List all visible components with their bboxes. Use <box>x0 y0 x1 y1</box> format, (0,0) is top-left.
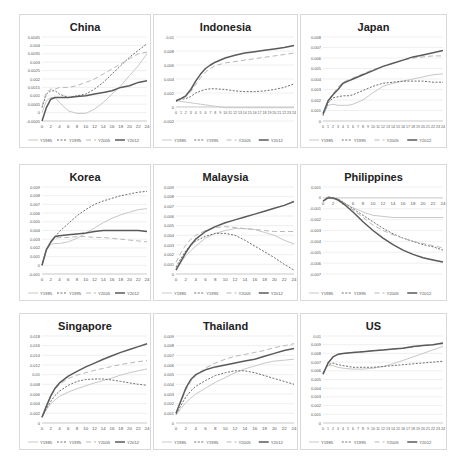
x-tick-label: 21 <box>277 111 281 115</box>
x-tick-label: 5 <box>200 111 202 115</box>
legend-label: Y2005 <box>239 291 252 296</box>
x-tick-label: 24 <box>145 124 150 129</box>
x-tick-label: 0 <box>41 124 44 129</box>
y-tick-label: 0.002 <box>30 245 41 250</box>
y-tick-label: 0.009 <box>164 334 175 339</box>
y-tick-label: 0.01 <box>166 35 175 40</box>
x-tick-label: 21 <box>426 125 430 129</box>
y-tick-label: 0.008 <box>311 35 322 40</box>
y-tick-label: 0.002 <box>311 98 322 103</box>
x-tick-label: 20 <box>272 111 276 115</box>
x-tick-label: 16 <box>253 111 257 115</box>
y-tick-label: 0.008 <box>164 49 175 54</box>
y-tick-label: 0.003 <box>30 60 41 65</box>
y-tick-label: -0.002 <box>163 119 175 124</box>
x-tick-label: 12 <box>381 125 385 129</box>
y-tick-label: 0.009 <box>164 185 175 190</box>
y-tick-label: 0.006 <box>164 63 175 68</box>
series-line-y1985 <box>176 359 294 415</box>
x-tick-label: 14 <box>101 124 106 129</box>
y-tick-label: 0.001 <box>30 254 41 259</box>
legend-label: Y2005 <box>98 138 111 143</box>
x-tick-label: 20 <box>127 124 132 129</box>
x-tick-label: 6 <box>204 277 207 282</box>
y-tick-label: 0.0025 <box>28 68 41 73</box>
x-tick-label: 4 <box>342 427 344 431</box>
chart-panel-china: China0.00450.0040.00350.0030.00250.0020.… <box>19 14 151 148</box>
x-tick-label: 14 <box>391 201 396 206</box>
y-tick-label: 0.004 <box>164 77 175 82</box>
series-line-y2012 <box>323 343 443 374</box>
y-tick-label: 0 <box>319 195 322 200</box>
y-tick-label: -0.0005 <box>26 119 40 124</box>
x-tick-label: 15 <box>396 125 400 129</box>
legend-label: Y1995 <box>354 440 367 445</box>
x-tick-label: 23 <box>436 125 440 129</box>
y-tick-label: 0 <box>172 272 175 277</box>
y-tick-label: 0 <box>172 105 175 110</box>
y-tick-label: 0.0035 <box>28 51 41 56</box>
x-tick-label: 4 <box>194 277 197 282</box>
x-tick-label: 22 <box>136 426 141 431</box>
x-tick-label: 8 <box>214 426 217 431</box>
series-line-y2012 <box>176 45 294 100</box>
legend-label: Y1995 <box>354 291 367 296</box>
x-tick-label: 16 <box>252 277 257 282</box>
x-tick-label: 14 <box>101 277 106 282</box>
legend-label: Y1985 <box>321 440 334 445</box>
x-tick-label: 9 <box>367 427 369 431</box>
x-tick-label: 12 <box>233 426 238 431</box>
x-tick-label: 24 <box>441 125 445 129</box>
x-tick-label: 0 <box>322 125 324 129</box>
y-tick-label: 0.01 <box>32 372 41 377</box>
legend-label: Y1995 <box>206 440 219 445</box>
x-tick-label: 3 <box>190 111 192 115</box>
y-tick-label: 0.016 <box>30 343 41 348</box>
x-tick-label: 19 <box>267 111 271 115</box>
x-tick-label: 7 <box>209 111 211 115</box>
x-tick-label: 3 <box>337 427 339 431</box>
y-tick-label: 0.001 <box>164 262 175 267</box>
legend-label: Y2012 <box>419 291 432 296</box>
series-line-y1985 <box>176 101 294 108</box>
y-tick-label: 0.014 <box>30 353 41 358</box>
series-line-y1985 <box>323 74 443 115</box>
x-tick-label: 4 <box>194 426 197 431</box>
x-tick-label: 14 <box>243 111 247 115</box>
x-tick-label: 18 <box>118 124 123 129</box>
x-tick-label: 20 <box>127 426 132 431</box>
y-tick-label: 0.004 <box>164 382 175 387</box>
y-tick-label: -0.007 <box>310 272 322 277</box>
y-tick-label: 0.0045 <box>28 35 41 40</box>
x-tick-label: 2 <box>185 426 188 431</box>
x-tick-label: 6 <box>204 426 207 431</box>
x-tick-label: 22 <box>282 111 286 115</box>
chart-panel-thailand: Thailand0.0090.0080.0070.0060.0050.0040.… <box>153 313 298 450</box>
x-tick-label: 18 <box>411 201 416 206</box>
legend-label: Y2012 <box>419 138 432 143</box>
legend-label: Y1985 <box>40 138 53 143</box>
y-tick-label: -0.006 <box>310 261 322 266</box>
x-tick-label: 20 <box>421 125 425 129</box>
x-tick-label: 19 <box>416 125 420 129</box>
series-line-y2005 <box>176 227 294 263</box>
x-tick-label: 4 <box>58 124 61 129</box>
x-tick-label: 8 <box>214 277 217 282</box>
x-tick-label: 24 <box>292 426 297 431</box>
line-chart: 0.0090.0080.0070.0060.0050.0040.0030.002… <box>154 314 299 451</box>
x-tick-label: 12 <box>381 201 386 206</box>
y-tick-label: 0.003 <box>311 394 322 399</box>
x-tick-label: 16 <box>401 201 406 206</box>
y-tick-label: 0.0005 <box>28 102 41 107</box>
legend-label: Y2005 <box>239 138 252 143</box>
series-line-y2005 <box>176 53 294 101</box>
x-tick-label: 20 <box>127 277 132 282</box>
x-tick-label: 19 <box>416 427 420 431</box>
x-tick-label: 6 <box>352 201 355 206</box>
y-tick-label: -0.002 <box>310 217 322 222</box>
line-chart: 0.0180.0160.0140.0120.010.0080.0060.0040… <box>20 314 152 451</box>
chart-panel-japan: Japan0.0080.0070.0060.0050.0040.0030.002… <box>300 14 447 148</box>
legend-label: Y1985 <box>174 291 187 296</box>
y-tick-label: 0.006 <box>30 392 41 397</box>
y-tick-label: 0 <box>38 263 41 268</box>
